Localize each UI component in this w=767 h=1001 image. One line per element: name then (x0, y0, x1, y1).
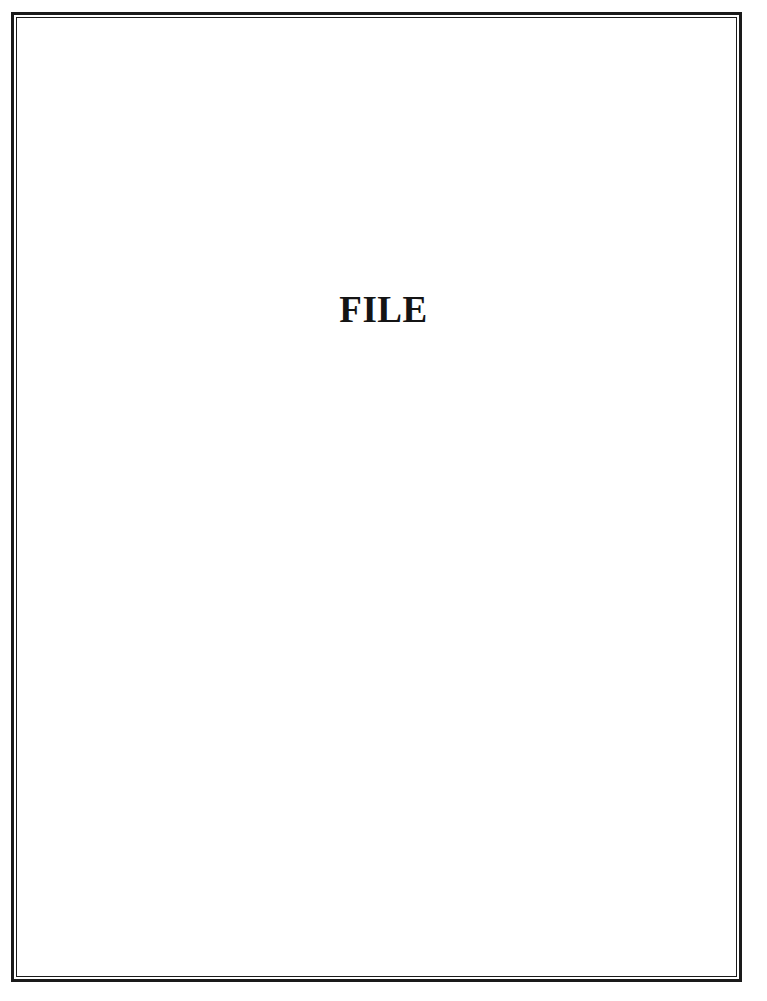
inner-border-frame (16, 17, 737, 977)
page-title: FILE (0, 290, 767, 330)
